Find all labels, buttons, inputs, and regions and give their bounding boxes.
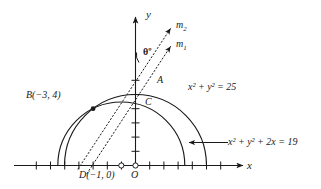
point-A-label: A (157, 75, 163, 85)
point-O-marker (133, 163, 138, 168)
point-D-label: D(−1, 0) (79, 170, 115, 180)
inner-equation-label: x² + y² + 2x = 19 (228, 137, 298, 147)
geometry-figure: y x B(−3, 4) D(−1, 0) O A C m2 m1 θº x² … (0, 0, 321, 189)
point-C-label: C (145, 97, 152, 107)
point-B-label: B(−3, 4) (26, 90, 61, 100)
ray-m2 (78, 29, 171, 170)
ray-m1-subscript: 1 (183, 44, 187, 52)
outer-equation-label: x² + y² = 25 (188, 82, 236, 92)
point-B-marker (91, 106, 96, 111)
ray-m1 (87, 47, 171, 174)
point-D-marker (119, 163, 124, 168)
ray-m1-label: m1 (176, 39, 187, 52)
angle-theta-label: θº (143, 47, 152, 57)
y-axis-label: y (146, 9, 151, 20)
axis-y (132, 17, 140, 166)
point-O-label: O (131, 170, 138, 180)
x-axis-label: x (247, 160, 252, 171)
ray-m2-label: m2 (176, 20, 187, 33)
axis-x (14, 162, 243, 170)
inner-semicircle (58, 102, 185, 166)
angle-arc-theta (136, 53, 139, 63)
ray-m2-subscript: 2 (183, 25, 187, 33)
